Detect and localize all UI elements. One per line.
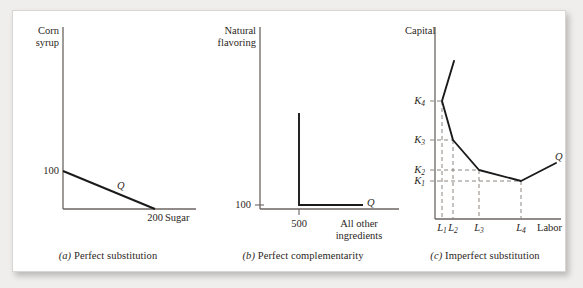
- isoquant-curve: [63, 171, 155, 209]
- panel-b-caption: (b) Perfect complementarity: [203, 250, 403, 261]
- curve-label-q: Q: [367, 197, 375, 209]
- y-axis-title-line2: syrup: [36, 37, 59, 48]
- y-axis-title: Natural flavoring: [205, 25, 256, 48]
- caption-text: Imperfect substitution: [445, 250, 540, 261]
- panel-a-plot: [13, 11, 203, 273]
- isoquant-curve: [299, 113, 363, 205]
- y-tick-label-100: 100: [213, 199, 251, 211]
- x-tick-label-l2: L2: [443, 222, 463, 235]
- curve-label-q: Q: [117, 180, 125, 192]
- y-tick-label-100: 100: [23, 165, 59, 177]
- panel-perfect-complementarity: Natural flavoring 100 500 All other ingr…: [203, 11, 403, 273]
- caption-text: Perfect complementarity: [258, 250, 364, 261]
- caption-letter: (b): [242, 250, 255, 261]
- y-tick-label-k4: K4: [401, 95, 425, 108]
- panel-imperfect-substitution: Capital K4 K3 K2 K1 L1 L2 L3 L4 Labor Q …: [403, 11, 567, 273]
- y-axis-title: Capital: [405, 25, 435, 37]
- y-axis-title: Corn syrup: [15, 25, 59, 48]
- panel-perfect-substitution: Corn syrup 100 200 Sugar Q (a) Perfect s…: [13, 11, 203, 273]
- panel-c-caption: (c) Imperfect substitution: [403, 250, 567, 261]
- caption-letter: (a): [59, 250, 72, 261]
- x-tick-label-500: 500: [279, 218, 319, 230]
- y-tick-label-k1: K1: [401, 175, 425, 188]
- x-axis-title: All other ingredients: [323, 218, 395, 241]
- y-tick-label-k3: K3: [401, 134, 425, 147]
- x-tick-label-l3: L3: [469, 222, 489, 235]
- panel-a-caption: (a) Perfect substitution: [13, 250, 203, 261]
- isoquant-curve: [442, 61, 556, 181]
- caption-text: Perfect substitution: [74, 250, 157, 261]
- y-axis-title-line1: Corn: [38, 25, 59, 36]
- y-axis-title-line1: Natural: [225, 25, 257, 36]
- curve-label-q: Q: [555, 151, 563, 163]
- y-axis-title-line2: flavoring: [218, 37, 257, 48]
- x-axis-title-line1: All other: [340, 218, 378, 229]
- x-axis-title-line2: ingredients: [336, 230, 383, 241]
- figure-card: Corn syrup 100 200 Sugar Q (a) Perfect s…: [12, 10, 566, 272]
- x-axis-title: Labor: [537, 222, 562, 234]
- x-tick-label-l4: L4: [511, 222, 531, 235]
- caption-letter: (c): [430, 250, 442, 261]
- x-axis-title: Sugar: [165, 212, 190, 224]
